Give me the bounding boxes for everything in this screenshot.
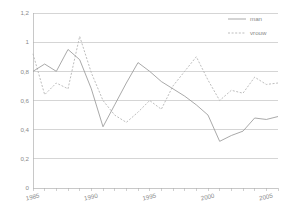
legend-label-vrouw: vrouw: [250, 29, 267, 36]
gridlines: [33, 13, 278, 159]
chart-canvas: 1,210,80,60,40,20 19851990199520002005 m…: [0, 0, 285, 216]
y-tick-label: 0,2: [20, 155, 29, 162]
x-tick-label: 2005: [258, 192, 273, 202]
x-tick-label: 1985: [25, 192, 40, 202]
x-axis-tickmarks: [33, 188, 278, 191]
y-tick-label: 0,8: [20, 68, 29, 75]
y-axis-tick-labels: 1,210,80,60,40,20: [20, 9, 29, 191]
y-tick-label: 1,2: [20, 9, 29, 16]
y-tick-label: 0,4: [20, 126, 29, 133]
x-tick-label: 2000: [200, 192, 215, 202]
x-tick-label: 1995: [142, 192, 157, 202]
line-chart: 1,210,80,60,40,20 19851990199520002005 m…: [0, 0, 285, 216]
series-line-vrouw: [33, 36, 278, 122]
legend-label-man: man: [250, 15, 263, 22]
y-tick-label: 0,6: [20, 97, 29, 104]
x-tick-label: 1990: [83, 192, 98, 202]
legend: man vrouw: [228, 15, 267, 36]
y-tick-label: 1: [26, 38, 30, 45]
y-tick-label: 0: [26, 184, 30, 191]
x-axis-tick-labels: 19851990199520002005: [25, 192, 274, 202]
series-line-man: [33, 49, 278, 141]
